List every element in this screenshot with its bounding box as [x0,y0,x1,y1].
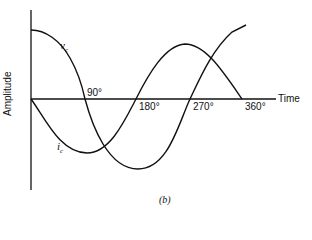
vc-label: vc [60,40,68,55]
y-axis-label: Amplitude [2,72,13,116]
tick-270: 270° [193,102,214,112]
x-axis-label: Time [278,94,300,104]
ic-label: ic [57,141,63,156]
figure-caption: (b) [159,195,171,205]
tick-180: 180° [139,102,160,112]
tick-90: 90° [87,88,102,98]
tick-360: 360° [245,102,266,112]
